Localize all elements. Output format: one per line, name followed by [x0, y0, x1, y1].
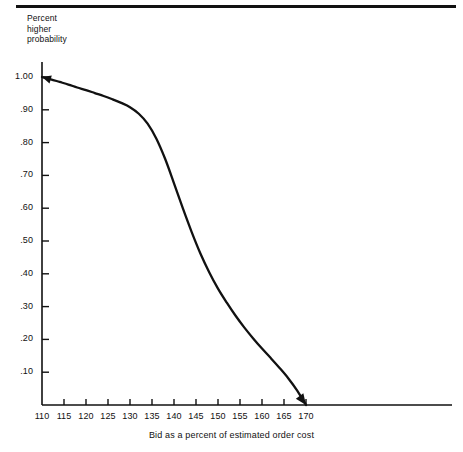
end-arrowhead	[296, 393, 306, 405]
chart-plot-area	[0, 0, 463, 452]
y-axis-tick-label: .50	[5, 235, 33, 245]
x-axis-tick-label: 170	[291, 411, 321, 421]
y-axis-tick-label: .60	[5, 202, 33, 212]
y-axis-tick-label: .80	[5, 137, 33, 147]
y-axis-tick-label: .70	[5, 169, 33, 179]
probability-curve	[42, 77, 306, 405]
y-axis-ticks	[42, 77, 49, 372]
y-axis-tick-label: .20	[5, 333, 33, 343]
y-axis-tick-label: .10	[5, 366, 33, 376]
x-axis-ticks	[64, 399, 306, 405]
x-axis-title: Bid as a percent of estimated order cost	[0, 430, 463, 440]
y-axis-tick-label: 1.00	[5, 71, 33, 81]
y-axis-tick-label: .30	[5, 301, 33, 311]
figure-container: Percent higher probability 1.00.90.80.70…	[0, 0, 463, 452]
y-axis-tick-label: .90	[5, 104, 33, 114]
y-axis-tick-label: .40	[5, 268, 33, 278]
